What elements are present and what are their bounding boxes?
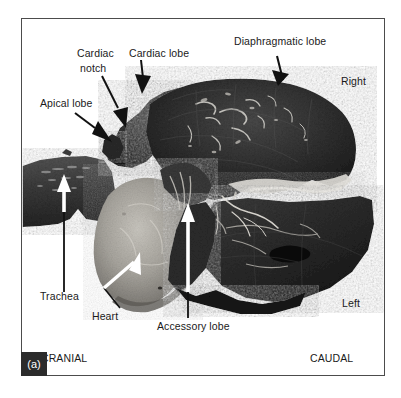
label-diaphragmatic-lobe: Diaphragmatic lobe xyxy=(234,35,326,47)
label-cardiac-notch-line1: Cardiac xyxy=(77,47,114,59)
label-cardiac-lobe: Cardiac lobe xyxy=(129,47,189,59)
label-trachea: Trachea xyxy=(40,290,79,302)
panel-tag: (a) xyxy=(21,352,47,376)
label-heart: Heart xyxy=(92,310,118,322)
orientation-right: Right xyxy=(341,75,366,87)
orientation-cranial: CRANIAL xyxy=(41,352,87,364)
label-apical-lobe: Apical lobe xyxy=(40,97,92,109)
label-accessory-lobe: Accessory lobe xyxy=(157,320,230,332)
orientation-left: Left xyxy=(342,297,360,309)
figure-panel: Diaphragmatic lobe Cardiac lobe Cardiac … xyxy=(0,0,401,398)
label-cardiac-notch-line2: notch xyxy=(80,62,106,74)
orientation-caudal: CAUDAL xyxy=(310,352,353,364)
